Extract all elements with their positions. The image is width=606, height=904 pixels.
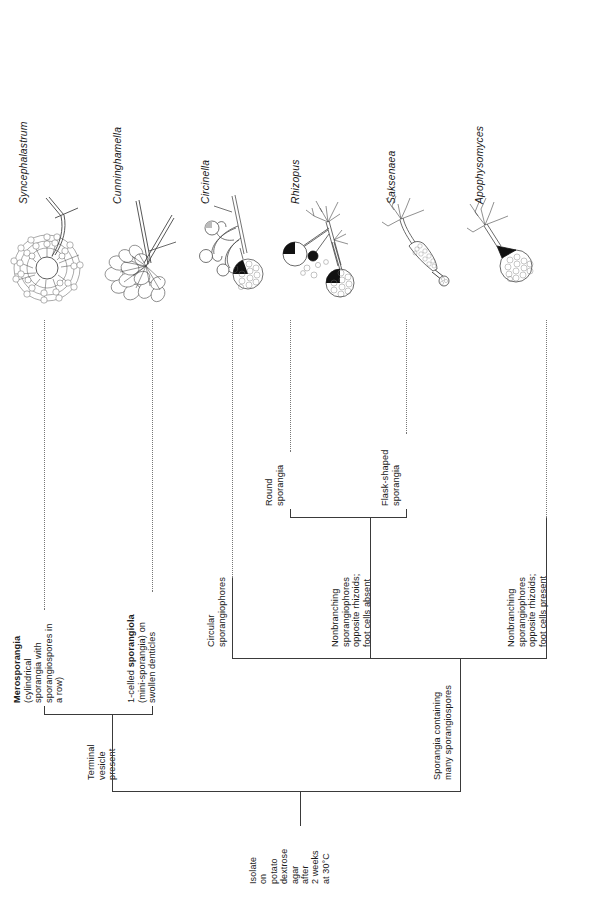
key-figure: Isolate on potato dextrose agar after 2 … [0,0,606,904]
split-3-spine [232,658,546,659]
branch-merosporangia-detail: (cylindrical sporangia with sporangiospo… [23,619,65,703]
leader-apophysomyces [546,320,547,518]
branch-sporangiola: 1-celled sporangiola(mini-sporangia) on … [126,599,158,703]
branch-circular: Circular sporangiophores [206,569,227,647]
apophysomyces-drawing [466,192,540,288]
root-stem [300,792,301,826]
branch-round-sporangia: Round sporangia [264,444,285,506]
taxon-name-cunninghamella: Cunninghamella [112,127,123,204]
rhizopus-drawing [282,194,354,300]
root-label: Isolate on potato dextrose agar after 2 … [248,824,331,884]
branch-nonbranching-present: Nonbranching sporangiophores opposite rh… [506,527,548,647]
branch-sporangiola-term: sporangiola [126,614,136,667]
nonbranching-absent-stem [370,518,371,659]
split-5-tick-top [290,509,291,518]
split-3-tick-bottom [546,650,547,659]
rotated-page: Isolate on potato dextrose agar after 2 … [0,0,606,904]
split-5-spine [290,517,406,518]
branch-merosporangia: Merosporangia(cylindrical sporangia with… [12,619,65,703]
split-3-tick-top [232,650,233,659]
leader-circinella [232,320,233,578]
branch-flask-sporangia: Flask-shaped sporangia [380,432,401,506]
branch-merosporangia-term: Merosporangia [12,636,22,703]
terminal-vesicle-stem [112,715,113,783]
leader-rhizopus [290,320,291,452]
taxon-name-syncephalastrum: Syncephalastrum [18,121,29,204]
cunninghamella-drawing [106,196,178,304]
nonbranching-present-stem [546,518,547,650]
key-stage: Isolate on potato dextrose agar after 2 … [0,0,606,904]
branch-sporangiola-detail: (mini-sporangia) on swollen denticles [137,599,158,703]
split-2-spine [44,714,152,715]
split-2-tick-top [44,706,45,715]
circular-stem [232,578,233,650]
circinella-drawing [192,194,268,300]
saksenaea-drawing [380,194,452,290]
split-2-tick-bottom [152,706,153,715]
many-spores-stem [460,659,461,783]
syncephalastrum-drawing [8,196,86,308]
leader-syncephalastrum [44,320,45,610]
branch-nonbranching-absent: Nonbranching sporangiophores opposite rh… [330,527,372,647]
split-1-tick-top [112,783,113,792]
leader-cunninghamella [152,320,153,592]
leader-saksenaea [406,320,407,434]
split-5-tick-bottom [406,509,407,518]
branch-terminal-vesicle: Terminal vesicle present [86,716,118,780]
branch-sporangiola-lead: 1-celled [126,667,136,703]
split-1-tick-bottom [460,783,461,792]
split-1-spine [112,791,460,792]
branch-many-sporangiospores: Sporangia containing many sporangiospore… [432,664,453,780]
